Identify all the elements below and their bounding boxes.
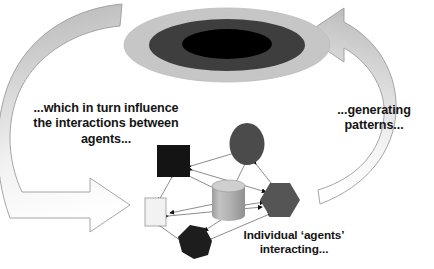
edge-n3-n4 <box>245 202 264 205</box>
edge-n1-n2 <box>191 152 238 166</box>
agent-node-rectangle-white <box>145 198 166 226</box>
caption-individual-agents: Individual ‘agents’ interacting... <box>218 228 370 257</box>
agent-node-heptagon-black <box>178 225 212 259</box>
agent-node-hexagon-gray <box>260 183 300 217</box>
agent-node-square-black <box>157 145 190 177</box>
caption-downward-influence: ...which in turn influence the interacti… <box>8 101 204 147</box>
caption-generating-patterns: ...generating patterns... <box>322 103 426 134</box>
diagram-canvas: ...which in turn influence the interacti… <box>0 0 434 269</box>
agent-node-ellipse-dark <box>230 123 265 165</box>
edge-n3-n5 <box>170 204 214 213</box>
agent-node-cylinder-light <box>212 180 245 221</box>
